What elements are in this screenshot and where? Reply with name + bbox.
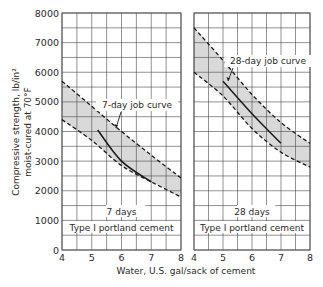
x-tick-label: 8: [178, 252, 184, 263]
panel-7-days: 7-day job curve7 daysType I portland cem…: [59, 13, 184, 263]
x-tick-label: 4: [59, 252, 65, 263]
cement-type-label: Type I portland cement: [69, 223, 174, 233]
y-tick-label: 4000: [35, 126, 59, 137]
x-tick-label: 6: [249, 252, 255, 263]
x-tick-label: 7: [148, 252, 154, 263]
x-tick-label: 5: [89, 252, 95, 263]
y-tick-label: 7000: [35, 37, 59, 48]
y-axis-label: Compressive strength, lb/in² moist-cured…: [11, 68, 33, 196]
x-axis-label: Water, U.S. gal/sack of cement: [117, 266, 256, 276]
y-axis-label-line2: moist-cured at 70°F: [23, 87, 33, 177]
job-curve-annotation: 7-day job curve: [102, 100, 173, 110]
x-tick-label: 4: [191, 252, 197, 263]
y-tick-label: 8000: [35, 8, 59, 19]
y-axis-label-line1: Compressive strength, lb/in²: [11, 68, 21, 196]
x-tick-label: 5: [220, 252, 226, 263]
y-tick-label: 2000: [35, 185, 59, 196]
panel-28-days: 28-day job curve28 daysType I portland c…: [191, 13, 313, 263]
job-curve-annotation: 28-day job curve: [230, 56, 306, 66]
y-tick-label: 5000: [35, 96, 59, 107]
y-tick-label: 6000: [35, 67, 59, 78]
y-tick-label: 3000: [35, 156, 59, 167]
x-tick-label: 7: [278, 252, 284, 263]
y-axis-ticks: 010002000300040005000600070008000: [35, 8, 59, 256]
cement-type-label: Type I portland cement: [199, 223, 304, 233]
period-label: 7 days: [107, 207, 137, 217]
x-tick-label: 6: [118, 252, 124, 263]
period-label: 28 days: [234, 207, 270, 217]
y-tick-label: 1000: [35, 215, 59, 226]
x-tick-label: 8: [307, 252, 313, 263]
water-cement-strength-chart: 010002000300040005000600070008000 7-day …: [0, 0, 323, 287]
